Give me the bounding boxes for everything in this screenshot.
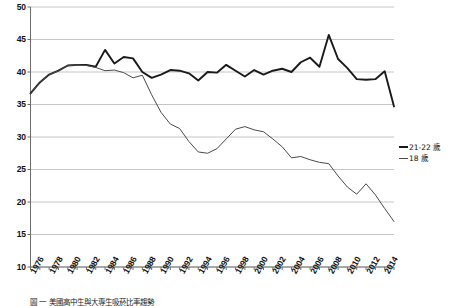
legend-item-2[interactable]: 18 歲 <box>399 153 455 163</box>
x-tick-label-1994: 1994 <box>197 255 214 275</box>
x-tick-label-1976: 1976 <box>29 255 46 275</box>
x-tick-label-2004: 2004 <box>290 255 307 275</box>
x-tick-label-2006: 2006 <box>309 255 326 275</box>
x-tick-label-1996: 1996 <box>215 255 232 275</box>
x-tick-label-1984: 1984 <box>104 255 121 275</box>
x-tick-label-2010: 2010 <box>346 255 363 275</box>
x-tick-label-1988: 1988 <box>141 255 158 275</box>
legend-item-1[interactable]: 21-22 歲 <box>399 142 455 152</box>
x-tick-label-2012: 2012 <box>365 255 382 275</box>
x-tick-label-2008: 2008 <box>327 255 344 275</box>
x-tick-label-1998: 1998 <box>234 255 251 275</box>
x-axis-tick-labels: 1976197819801982198419861988199019921994… <box>0 0 455 306</box>
x-tick-label-2000: 2000 <box>253 255 270 275</box>
x-tick-label-2002: 2002 <box>271 255 288 275</box>
x-tick-label-1992: 1992 <box>178 255 195 275</box>
x-tick-label-1978: 1978 <box>48 255 65 275</box>
x-tick-label-2014: 2014 <box>383 255 400 275</box>
figure-caption: 圖 一 美國高中生與大專生吸菸比率趨勢 <box>30 298 450 306</box>
legend-line-swatch-1 <box>399 146 408 148</box>
legend-line-swatch-2 <box>399 158 408 159</box>
x-tick-label-1982: 1982 <box>85 255 102 275</box>
legend-label-1: 21-22 歲 <box>409 143 440 152</box>
x-tick-label-1990: 1990 <box>159 255 176 275</box>
x-tick-label-1980: 1980 <box>66 255 83 275</box>
legend-label-2: 18 歲 <box>409 154 428 163</box>
chart-legend: 21-22 歲18 歲 <box>399 142 455 164</box>
chart-figure: 504540353025201510 197619781980198219841… <box>0 0 455 306</box>
x-tick-label-1986: 1986 <box>122 255 139 275</box>
